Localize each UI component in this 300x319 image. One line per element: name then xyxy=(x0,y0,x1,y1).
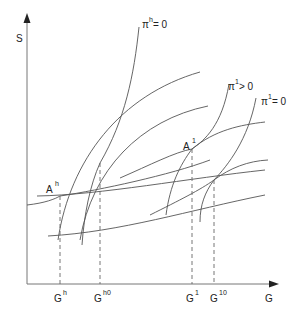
tick-G10: G xyxy=(210,293,218,304)
curve-upper-arc-h xyxy=(58,72,200,240)
tick-Gh: G xyxy=(54,293,62,304)
curve-arc-1 xyxy=(120,122,265,178)
y-axis-arrow-icon xyxy=(24,13,31,23)
x-axis-label: G xyxy=(265,293,273,304)
curve-pi-1-pos xyxy=(166,84,229,215)
point-label-Ah-sup: h xyxy=(55,180,59,187)
label-pi-1-zero: π xyxy=(261,96,268,107)
tick-Gh0: G xyxy=(94,293,102,304)
tick-G10-sup: 10 xyxy=(219,289,227,296)
y-axis-label: S xyxy=(16,33,23,44)
tick-G1: G xyxy=(186,293,194,304)
label-pi-1-pos: π xyxy=(228,81,235,92)
diagram-canvas: S G A h A 1 π h = 0 π 1 > 0 π 1 = 0 G h … xyxy=(0,0,300,319)
label-pi-h: π xyxy=(142,19,149,30)
curve-second-arc-h xyxy=(80,106,208,240)
curve-pi-h-zero xyxy=(82,27,139,245)
point-label-A1: A xyxy=(183,141,190,152)
label-pi-h-rest: = 0 xyxy=(153,19,168,30)
curve-flat-through-Ah xyxy=(37,170,265,196)
label-pi-1-zero-rest: = 0 xyxy=(272,96,287,107)
x-axis-arrow-icon xyxy=(269,281,279,288)
tick-G1-sup: 1 xyxy=(195,289,199,296)
label-pi-1-pos-rest: > 0 xyxy=(239,81,254,92)
curve-flat-lower xyxy=(48,195,265,236)
point-label-Ah: A xyxy=(46,184,53,195)
tick-Gh0-sup: h0 xyxy=(103,289,111,296)
point-label-A1-sup: 1 xyxy=(192,137,196,144)
tick-Gh-sup: h xyxy=(63,289,67,296)
